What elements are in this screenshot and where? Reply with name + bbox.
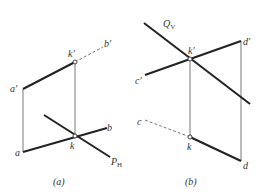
projection-diagram: k′ b′ a′ a k b PH (a) QV k′ d′ c′ c k d …	[0, 0, 264, 194]
plane-trace-qv	[144, 23, 250, 104]
label-k-prime: k′	[188, 45, 195, 56]
label-d-prime: d′	[243, 36, 251, 47]
label-q: QV	[163, 18, 175, 31]
label-c: c	[137, 116, 142, 127]
figure-b: QV k′ d′ c′ c k d (b)	[135, 18, 251, 188]
line-a-b	[23, 128, 107, 152]
hidden-line-k-prime-b-prime	[75, 47, 103, 62]
hidden-line-c-k	[145, 120, 190, 137]
figure-a: k′ b′ a′ a k b PH (a)	[10, 38, 122, 188]
point-k	[73, 134, 77, 138]
label-b: b	[107, 122, 112, 133]
line-a-prime-k-prime	[23, 62, 75, 89]
label-d: d	[243, 160, 249, 171]
caption-a: (a)	[53, 176, 65, 188]
point-k	[188, 135, 192, 139]
label-a: a	[15, 147, 20, 158]
point-k-prime	[73, 60, 77, 64]
label-c-prime: c′	[135, 75, 142, 86]
point-k-prime	[188, 57, 192, 61]
label-k: k	[187, 141, 192, 152]
line-k-d	[190, 137, 241, 161]
label-k: k	[70, 140, 75, 151]
label-b-prime: b′	[104, 38, 112, 49]
label-p: PH	[110, 156, 122, 169]
caption-b: (b)	[185, 176, 197, 188]
label-a-prime: a′	[10, 83, 18, 94]
label-k-prime: k′	[68, 48, 75, 59]
